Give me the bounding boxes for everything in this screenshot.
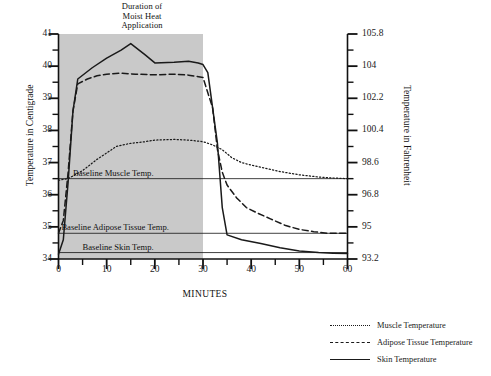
legend-key-dotted-icon	[330, 321, 370, 331]
y-tick-label-left: 41	[28, 28, 52, 38]
y-tick-label-right: 96.8	[362, 189, 402, 199]
legend-item: Muscle Temperature	[330, 317, 473, 334]
y-tick-label-right: 100.4	[362, 124, 402, 134]
chart-legend: Muscle TemperatureAdipose Tissue Tempera…	[330, 317, 473, 368]
x-tick-label: 30	[190, 264, 216, 274]
legend-key-solid-icon	[330, 355, 370, 365]
chart-title: Duration of Moist Heat Application	[86, 2, 198, 31]
legend-label: Skin Temperature	[377, 355, 437, 364]
y-tick-label-right: 98.6	[362, 157, 402, 167]
y-tick-label-left: 38	[28, 124, 52, 134]
baseline-label: Baseline Muscle Temp.	[73, 168, 154, 178]
y-tick-label-right: 104	[362, 60, 402, 70]
legend-label: Muscle Temperature	[377, 321, 446, 330]
x-axis-title: MINUTES	[140, 289, 270, 300]
y-tick-label-right: 93.2	[362, 253, 402, 263]
y-axis-title-right: Temperature in Fahrenheit	[402, 45, 413, 225]
y-tick-label-left: 40	[28, 60, 52, 70]
y-tick-label-left: 35	[28, 221, 52, 231]
chart-figure: Duration of Moist Heat Application Tempe…	[0, 0, 491, 376]
y-tick-label-right: 95	[362, 221, 402, 231]
y-tick-label-left: 37	[28, 157, 52, 167]
legend-label: Adipose Tissue Temperature	[377, 338, 473, 347]
legend-item: Skin Temperature	[330, 351, 473, 368]
x-tick-label: 40	[238, 264, 264, 274]
y-tick-label-right: 105.8	[362, 28, 402, 38]
baseline-label: Baseline Skin Temp.	[83, 242, 154, 252]
x-tick-label: 60	[335, 264, 361, 274]
y-tick-label-left: 36	[28, 189, 52, 199]
legend-key-dashed-icon	[330, 338, 370, 348]
y-tick-label-left: 39	[28, 92, 52, 102]
legend-item: Adipose Tissue Temperature	[330, 334, 473, 351]
x-tick-label: 10	[94, 264, 120, 274]
x-tick-label: 0	[46, 264, 72, 274]
x-tick-label: 50	[286, 264, 312, 274]
baseline-label: Baseline Adipose Tissue Temp.	[61, 222, 169, 232]
y-tick-label-right: 102.2	[362, 92, 402, 102]
y-tick-label-left: 34	[28, 253, 52, 263]
x-tick-label: 20	[142, 264, 168, 274]
